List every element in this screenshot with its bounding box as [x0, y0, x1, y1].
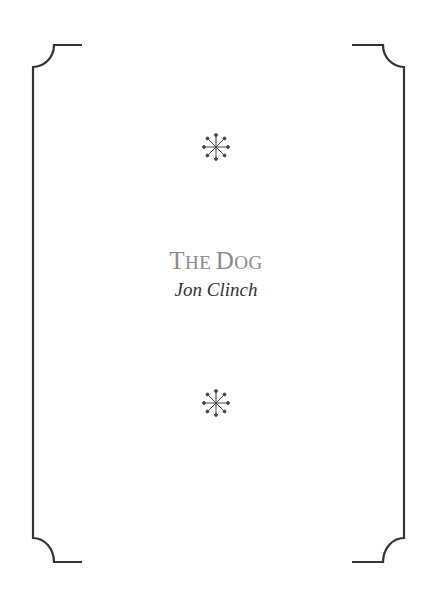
title-initial: T [169, 247, 185, 274]
title-rest: OG [234, 252, 262, 273]
title-initial: D [216, 247, 235, 274]
title-rest: HE [185, 252, 211, 273]
asterism-star-icon [196, 383, 236, 423]
asterism-star-icon [196, 127, 236, 167]
author-name: Jon Clinch [0, 279, 432, 301]
book-title: THE DOG [0, 247, 432, 275]
